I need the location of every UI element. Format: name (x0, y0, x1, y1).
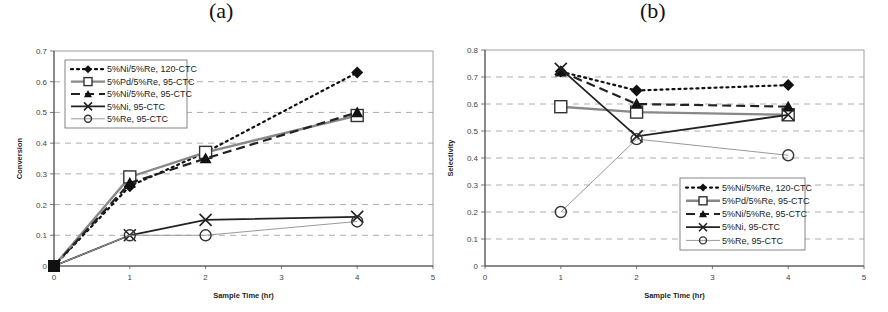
series-3 (555, 63, 794, 142)
x-tick-label: 5 (862, 273, 867, 282)
square-marker (699, 197, 707, 205)
y-tick-label: 0.6 (467, 100, 479, 109)
x-tick-label: 1 (559, 273, 564, 282)
legend-label: 5%Ni, 95-CTC (722, 222, 781, 232)
y-tick-label: 0.2 (467, 208, 479, 217)
y-tick-label: 0.5 (467, 127, 479, 136)
y-tick-label: 0 (474, 262, 479, 271)
x-tick-label: 0 (483, 273, 488, 282)
x-tick-label: 4 (786, 273, 791, 282)
plot-area: 00.10.20.30.40.50.60.70.8012345Sample Ti… (446, 46, 867, 300)
x-tick-label: 2 (634, 273, 639, 282)
series-line (561, 107, 788, 115)
diamond-marker (782, 79, 794, 91)
series-line (561, 72, 788, 91)
x-tick-label: 3 (710, 273, 715, 282)
selectivity-chart: 00.10.20.30.40.50.60.70.8012345Sample Ti… (0, 0, 888, 312)
y-axis-title: Selectivity (446, 139, 455, 177)
y-tick-label: 0.8 (467, 46, 479, 55)
diamond-marker (631, 85, 643, 97)
series-0 (555, 66, 794, 97)
legend-label: 5%Ni/5%Re, 120-CTC (722, 183, 813, 193)
legend-label: 5%Re, 95-CTC (722, 236, 784, 246)
square-marker (555, 101, 567, 113)
x-axis-title: Sample Time (hr) (644, 291, 705, 300)
y-tick-label: 0.4 (467, 154, 479, 163)
legend: 5%Ni/5%Re, 120-CTC5%Pd/5%Re, 95-CTC5%Ni/… (680, 178, 813, 250)
y-tick-label: 0.3 (467, 181, 479, 190)
legend-item: 5%Ni, 95-CTC (686, 222, 781, 232)
legend-label: 5%Ni/5%Re, 95-CTC (722, 209, 808, 219)
y-tick-label: 0.1 (467, 235, 479, 244)
series-line (561, 69, 788, 136)
y-tick-label: 0.7 (467, 73, 479, 82)
legend-item: 5%Pd/5%Re, 95-CTC (686, 196, 810, 206)
legend-label: 5%Pd/5%Re, 95-CTC (722, 196, 810, 206)
